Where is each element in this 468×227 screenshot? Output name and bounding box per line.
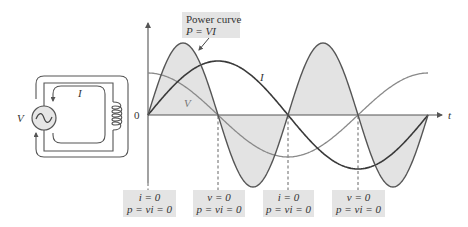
annotation-box-1: i = 0 p = vi = 0 [123,190,176,217]
svg-text:p = vi = 0: p = vi = 0 [196,203,242,215]
svg-text:i = 0: i = 0 [278,191,300,203]
svg-text:v = 0: v = 0 [207,191,231,203]
ac-inductor-power-diagram: V I 0 t I V Power curve P = VI [0,0,468,227]
circuit-diagram: V I [17,76,128,157]
power-callout-formula: P = VI [185,25,217,37]
power-callout-title: Power curve [186,13,241,25]
annotation-box-4: v = 0 p = vi = 0 [332,190,385,217]
source-voltage-label: V [17,112,25,124]
svg-text:i = 0: i = 0 [139,191,161,203]
svg-text:p = vi = 0: p = vi = 0 [265,203,311,215]
svg-text:p = vi = 0: p = vi = 0 [126,203,172,215]
inductor-coil-icon [112,102,122,130]
waveform-graph: 0 t I V Power curve P = VI i = 0 p = vi … [123,12,452,217]
svg-text:v = 0: v = 0 [347,191,371,203]
current-curve-label: I [259,71,265,83]
annotation-box-3: i = 0 p = vi = 0 [263,190,314,217]
origin-label: 0 [134,109,140,121]
power-curve-callout: Power curve P = VI [182,12,241,50]
svg-text:p = vi = 0: p = vi = 0 [335,203,381,215]
annotation-box-2: v = 0 p = vi = 0 [193,190,245,217]
time-axis-label: t [448,109,452,121]
circuit-current-label: I [77,87,83,99]
ac-source-icon [32,106,56,130]
